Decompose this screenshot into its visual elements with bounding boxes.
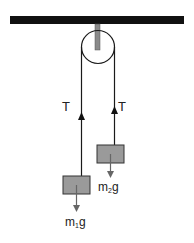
pulley-rod	[95, 24, 100, 50]
weight-arrowhead-m1	[73, 205, 80, 212]
weight-arrowhead-m2	[107, 171, 114, 178]
atwood-diagram: T T m1g m2g	[0, 0, 194, 243]
weight-label-m1: m1g	[65, 215, 86, 229]
tension-label-left: T	[62, 99, 70, 114]
tension-label-right: T	[118, 99, 126, 114]
ceiling	[10, 16, 184, 24]
tension-arrow-left	[78, 112, 85, 120]
tension-arrow-right	[111, 106, 118, 114]
weight-label-m2: m2g	[98, 180, 119, 194]
